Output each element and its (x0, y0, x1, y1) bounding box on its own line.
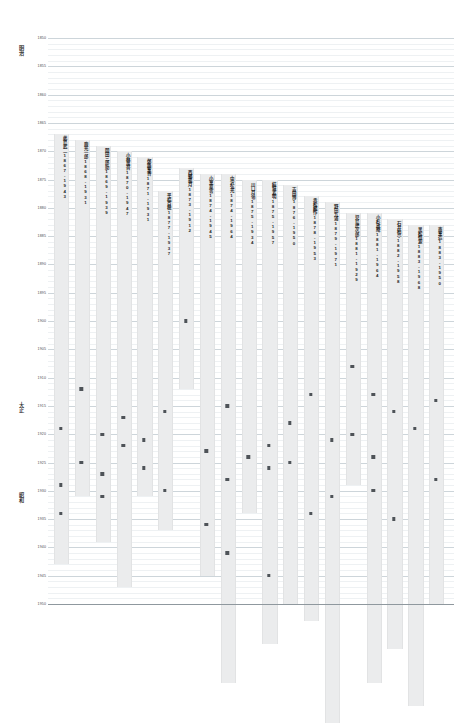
person-column[interactable]: 石井柏亭1882-1958 (387, 38, 400, 604)
person-column[interactable]: 野田九浦1879-1971 (325, 38, 338, 604)
event-marker[interactable] (267, 444, 270, 447)
event-marker[interactable] (226, 478, 229, 481)
event-marker[interactable] (184, 319, 187, 322)
event-marker[interactable] (330, 438, 333, 441)
year-tick-1890: 1890 (0, 262, 46, 266)
year-tick-1885: 1885 (0, 234, 46, 238)
event-marker[interactable] (121, 444, 124, 447)
event-marker[interactable] (351, 365, 354, 368)
person-label: 小室翠雲1874-1945 (200, 174, 213, 576)
event-marker[interactable] (59, 512, 62, 515)
person-column[interactable]: 西郷孤月1873-1912 (179, 38, 192, 604)
year-tick-1935: 1935 (0, 517, 46, 521)
event-marker[interactable] (267, 466, 270, 469)
year-tick-1910: 1910 (0, 376, 46, 380)
person-label: 小杉放庵1881-1964 (367, 213, 380, 683)
event-marker[interactable] (309, 512, 312, 515)
year-tick-1855: 1855 (0, 64, 46, 68)
year-axis: 1850185518601865187018751880188518901895… (0, 38, 46, 604)
person-label: 鄭路薫香1871-1931 (137, 157, 150, 497)
event-marker[interactable] (163, 410, 166, 413)
event-marker[interactable] (330, 495, 333, 498)
person-column[interactable]: 岡田三郎助1869-1939 (96, 38, 109, 604)
year-tick-1875: 1875 (0, 178, 46, 182)
person-label: 平福百穂1877-1937 (158, 191, 171, 531)
person-label: 中沢弘光1874-1964 (221, 174, 234, 683)
event-marker[interactable] (59, 427, 62, 430)
year-tick-1900: 1900 (0, 319, 46, 323)
event-marker[interactable] (392, 517, 395, 520)
person-label: 西郷孤月1873-1912 (179, 168, 192, 389)
event-marker[interactable] (101, 472, 104, 475)
person-column[interactable]: 黒松恒源1883-1968 (408, 38, 421, 604)
event-marker[interactable] (267, 574, 270, 577)
event-marker[interactable] (434, 399, 437, 402)
year-tick-1940: 1940 (0, 545, 46, 549)
person-column[interactable]: 小室翠雲1874-1945 (200, 38, 213, 604)
axis-baseline (48, 604, 454, 605)
year-tick-1950: 1950 (0, 602, 46, 606)
year-tick-1850: 1850 (0, 36, 46, 40)
event-marker[interactable] (288, 421, 291, 424)
person-label: 赤松麟作1878-1953 (304, 196, 317, 621)
event-marker[interactable] (80, 387, 83, 390)
year-tick-1920: 1920 (0, 432, 46, 436)
person-label: 児島虎次郎1881-1929 (346, 213, 359, 485)
event-marker[interactable] (226, 404, 229, 407)
person-column[interactable]: 小林萬吾1870-1947 (117, 38, 130, 604)
person-label: 石井柏亭1882-1958 (387, 219, 400, 649)
event-marker[interactable] (288, 461, 291, 464)
event-marker[interactable] (163, 489, 166, 492)
year-tick-1865: 1865 (0, 121, 46, 125)
person-column[interactable]: 児島虎次郎1881-1929 (346, 38, 359, 604)
person-label: 川口月嶺1875-1934 (242, 180, 255, 514)
event-marker[interactable] (59, 483, 62, 486)
event-marker[interactable] (351, 433, 354, 436)
year-tick-1915: 1915 (0, 404, 46, 408)
event-marker[interactable] (101, 495, 104, 498)
event-marker[interactable] (392, 410, 395, 413)
person-column[interactable]: 結城素明1875-1957 (262, 38, 275, 604)
event-marker[interactable] (413, 427, 416, 430)
person-column[interactable]: 吉田博1876-1950 (283, 38, 296, 604)
year-tick-1945: 1945 (0, 574, 46, 578)
year-tick-1905: 1905 (0, 347, 46, 351)
event-marker[interactable] (309, 393, 312, 396)
person-label: 吉田博1876-1950 (283, 185, 296, 604)
event-marker[interactable] (372, 489, 375, 492)
event-marker[interactable] (142, 466, 145, 469)
year-tick-1880: 1880 (0, 206, 46, 210)
person-column[interactable]: 鹿光一郎1868-1931 (75, 38, 88, 604)
event-marker[interactable] (434, 478, 437, 481)
person-label: 黒松恒源1883-1968 (408, 225, 421, 706)
year-tick-1930: 1930 (0, 489, 46, 493)
person-column[interactable]: 川口月嶺1875-1934 (242, 38, 255, 604)
person-column[interactable]: 小杉放庵1881-1964 (367, 38, 380, 604)
event-marker[interactable] (372, 393, 375, 396)
person-label: 鹿光一郎1868-1931 (75, 140, 88, 497)
event-marker[interactable] (80, 461, 83, 464)
person-label: 野田九浦1879-1971 (325, 202, 338, 723)
person-column[interactable]: 南薫造1883-1950 (429, 38, 442, 604)
event-marker[interactable] (372, 455, 375, 458)
event-marker[interactable] (246, 455, 249, 458)
person-column[interactable]: 藤島武二1867-1943 (54, 38, 67, 604)
person-column[interactable]: 赤松麟作1878-1953 (304, 38, 317, 604)
person-column[interactable]: 平福百穂1877-1937 (158, 38, 171, 604)
person-label: 小林萬吾1870-1947 (117, 151, 130, 587)
person-label: 岡田三郎助1869-1939 (96, 146, 109, 542)
person-column[interactable]: 鄭路薫香1871-1931 (137, 38, 150, 604)
year-tick-1870: 1870 (0, 149, 46, 153)
year-tick-1860: 1860 (0, 93, 46, 97)
event-marker[interactable] (101, 433, 104, 436)
event-marker[interactable] (205, 523, 208, 526)
year-tick-1925: 1925 (0, 461, 46, 465)
plot-area: 藤島武二1867-1943鹿光一郎1868-1931岡田三郎助1869-1939… (48, 38, 454, 604)
event-marker[interactable] (121, 416, 124, 419)
year-tick-1895: 1895 (0, 291, 46, 295)
person-column[interactable]: 中沢弘光1874-1964 (221, 38, 234, 604)
event-marker[interactable] (205, 449, 208, 452)
event-marker[interactable] (226, 551, 229, 554)
event-marker[interactable] (142, 438, 145, 441)
